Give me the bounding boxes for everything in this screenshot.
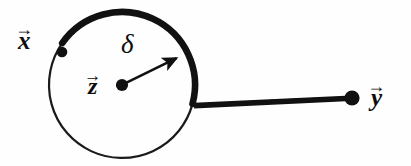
delta-radius-arrow — [125, 58, 177, 83]
label-vector-x: → x — [18, 28, 31, 53]
label-delta: δ — [121, 31, 134, 58]
label-vector-y: → y — [371, 85, 382, 110]
point-z-dot — [116, 79, 128, 91]
vector-ball-diagram — [0, 0, 411, 166]
vector-x-glyph-wrap: → x — [18, 28, 31, 53]
label-vector-z: → z — [88, 74, 97, 98]
vector-y-glyph-wrap: → y — [371, 85, 382, 110]
vector-arrow-accent-z: → — [84, 67, 101, 84]
point-x-dot — [57, 47, 68, 58]
vector-arrow-accent-y: → — [367, 77, 385, 95]
vector-z-glyph-wrap: → z — [88, 74, 97, 98]
vector-arrow-accent-x: → — [15, 20, 33, 38]
point-y-dot — [344, 90, 359, 105]
figure-canvas: → x → z → y δ — [0, 0, 411, 166]
